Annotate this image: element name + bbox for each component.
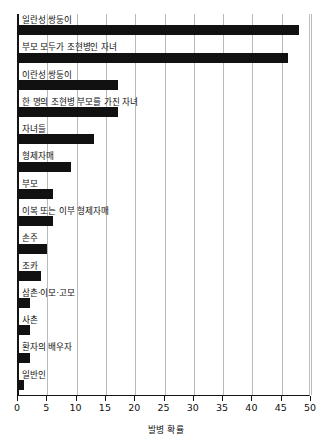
tick-mark-25 bbox=[164, 396, 165, 401]
bar-row: 삼촌·이모·고모 bbox=[18, 287, 309, 314]
bar-label: 부모 bbox=[22, 178, 38, 190]
plot-area: 일란성 쌍둥이부모 모두가 조현병인 자녀이란성 쌍둥이한 명의 조현병 부모를… bbox=[17, 14, 310, 396]
tick-mark-45 bbox=[281, 396, 282, 401]
bar bbox=[18, 134, 94, 144]
bar-label: 자녀들 bbox=[22, 123, 46, 135]
bar-label: 사촌 bbox=[22, 314, 38, 326]
tick-mark-40 bbox=[251, 396, 252, 401]
bar-label: 형제자매 bbox=[22, 150, 54, 162]
bar bbox=[18, 271, 41, 281]
bar bbox=[18, 353, 30, 363]
tick-mark-0 bbox=[17, 396, 18, 401]
bar bbox=[18, 53, 288, 63]
bar-rows: 일란성 쌍둥이부모 모두가 조현병인 자녀이란성 쌍둥이한 명의 조현병 부모를… bbox=[18, 14, 309, 395]
bar-row: 일반인 bbox=[18, 369, 309, 396]
bar bbox=[18, 25, 299, 35]
tick-mark-30 bbox=[193, 396, 194, 401]
tick-mark-5 bbox=[46, 396, 47, 401]
bar-row: 부모 모두가 조현병인 자녀 bbox=[18, 41, 309, 68]
tick-label-45: 45 bbox=[275, 402, 287, 414]
bar-row: 자녀들 bbox=[18, 123, 309, 150]
tick-label-10: 10 bbox=[70, 402, 82, 414]
tick-mark-20 bbox=[134, 396, 135, 401]
bar-label: 이란성 쌍둥이 bbox=[22, 69, 72, 81]
bar-label: 삼촌·이모·고모 bbox=[22, 287, 75, 299]
tick-label-0: 0 bbox=[14, 402, 20, 414]
bar-row: 환자의 배우자 bbox=[18, 341, 309, 368]
bar bbox=[18, 80, 118, 90]
tick-mark-50 bbox=[310, 396, 311, 401]
bar bbox=[18, 298, 30, 308]
tick-mark-15 bbox=[105, 396, 106, 401]
tick-label-5: 5 bbox=[43, 402, 49, 414]
bar bbox=[18, 189, 53, 199]
bar-label: 환자의 배우자 bbox=[22, 341, 72, 353]
bar-label: 일란성 쌍둥이 bbox=[22, 14, 72, 26]
schizophrenia-risk-bar-chart: 일란성 쌍둥이부모 모두가 조현병인 자녀이란성 쌍둥이한 명의 조현병 부모를… bbox=[0, 0, 332, 444]
bar-row: 일란성 쌍둥이 bbox=[18, 14, 309, 41]
bar-row: 한 명의 조현병 부모를 가진 자녀 bbox=[18, 96, 309, 123]
gridline-50 bbox=[311, 14, 312, 395]
bar-label: 조카 bbox=[22, 260, 38, 272]
tick-label-35: 35 bbox=[216, 402, 228, 414]
bar bbox=[18, 162, 71, 172]
bar-row: 부모 bbox=[18, 178, 309, 205]
bar-row: 사촌 bbox=[18, 314, 309, 341]
bar-label: 한 명의 조현병 부모를 가진 자녀 bbox=[22, 96, 138, 108]
bar-row: 이복 또는 이부 형제자매 bbox=[18, 205, 309, 232]
tick-label-25: 25 bbox=[157, 402, 169, 414]
bar-label: 부모 모두가 조현병인 자녀 bbox=[22, 41, 117, 53]
tick-label-50: 50 bbox=[304, 402, 316, 414]
tick-label-15: 15 bbox=[99, 402, 111, 414]
bar bbox=[18, 380, 24, 390]
bar-label: 손주 bbox=[22, 232, 38, 244]
tick-label-40: 40 bbox=[245, 402, 257, 414]
bar bbox=[18, 216, 53, 226]
bar bbox=[18, 107, 118, 117]
bar-label: 일반인 bbox=[22, 369, 46, 381]
bar-label: 이복 또는 이부 형제자매 bbox=[22, 205, 109, 217]
bar-row: 조카 bbox=[18, 260, 309, 287]
bar-row: 손주 bbox=[18, 232, 309, 259]
tick-mark-35 bbox=[222, 396, 223, 401]
tick-mark-10 bbox=[76, 396, 77, 401]
bar-row: 형제자매 bbox=[18, 150, 309, 177]
x-axis-title: 발병 확률 bbox=[0, 423, 332, 436]
bar-row: 이란성 쌍둥이 bbox=[18, 69, 309, 96]
bar bbox=[18, 244, 47, 254]
tick-label-20: 20 bbox=[128, 402, 140, 414]
bar bbox=[18, 325, 30, 335]
tick-label-30: 30 bbox=[187, 402, 199, 414]
